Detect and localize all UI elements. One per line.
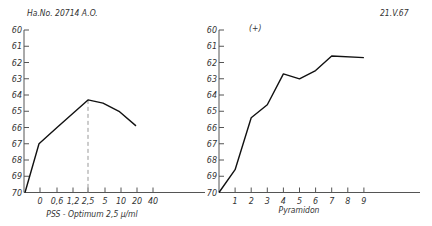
x-tick-label: 8 <box>345 197 350 206</box>
y-tick-label: 69 <box>207 172 217 181</box>
x-tick-label: 3 <box>265 197 270 206</box>
y-tick-label: 61 <box>207 42 217 51</box>
x-tick-label: 1,2 <box>67 197 80 206</box>
series-line <box>25 100 136 193</box>
y-tick-label: 65 <box>12 107 22 116</box>
x-tick-label: 9 <box>361 197 366 206</box>
y-tick-label: 66 <box>207 124 217 133</box>
chart-left-pss: 606162636465666768697000,61,22,55102040P… <box>12 26 205 219</box>
y-tick-label: 62 <box>12 59 22 68</box>
y-tick-label: 63 <box>207 75 217 84</box>
y-tick-label: 64 <box>12 91 22 100</box>
x-tick-label: 20 <box>132 197 142 206</box>
x-tick-label: 0,6 <box>51 197 64 206</box>
sample-label: Ha.No. 20714 A.O. <box>27 8 98 18</box>
y-tick-label: 65 <box>207 107 217 116</box>
date-label: 21.V.67 <box>380 8 409 18</box>
x-tick-label: 1 <box>233 197 238 206</box>
chart-right-pyramidon: 6061626364656667686970123456789Pyramidon <box>207 26 420 215</box>
x-axis-title: PSS - Optimum 2,5 μ/ml <box>46 209 138 219</box>
y-tick-label: 69 <box>12 172 22 181</box>
y-tick-label: 61 <box>12 42 22 51</box>
x-tick-label: 2,5 <box>82 197 95 206</box>
chart-canvas: Ha.No. 20714 A.O. 21.V.67 (+) 6061626364… <box>0 0 432 226</box>
y-tick-label: 68 <box>207 156 217 165</box>
y-tick-label: 70 <box>207 189 217 198</box>
x-tick-label: 40 <box>148 197 158 206</box>
series-line <box>219 56 364 193</box>
x-tick-label: 7 <box>329 197 335 206</box>
y-tick-label: 62 <box>207 59 217 68</box>
x-axis-title: Pyramidon <box>279 205 320 215</box>
y-tick-label: 66 <box>12 124 22 133</box>
y-tick-label: 60 <box>12 26 22 35</box>
y-tick-label: 70 <box>12 189 22 198</box>
x-tick-label: 0 <box>37 197 42 206</box>
x-tick-label: 2 <box>249 197 254 206</box>
x-tick-label: 5 <box>102 197 107 206</box>
panel2-annotation: (+) <box>249 23 261 33</box>
y-tick-label: 67 <box>12 140 23 149</box>
x-tick-label: 10 <box>116 197 126 206</box>
y-tick-label: 68 <box>12 156 22 165</box>
y-tick-label: 64 <box>207 91 217 100</box>
y-tick-label: 67 <box>207 140 218 149</box>
y-tick-label: 63 <box>12 75 22 84</box>
y-tick-label: 60 <box>207 26 217 35</box>
